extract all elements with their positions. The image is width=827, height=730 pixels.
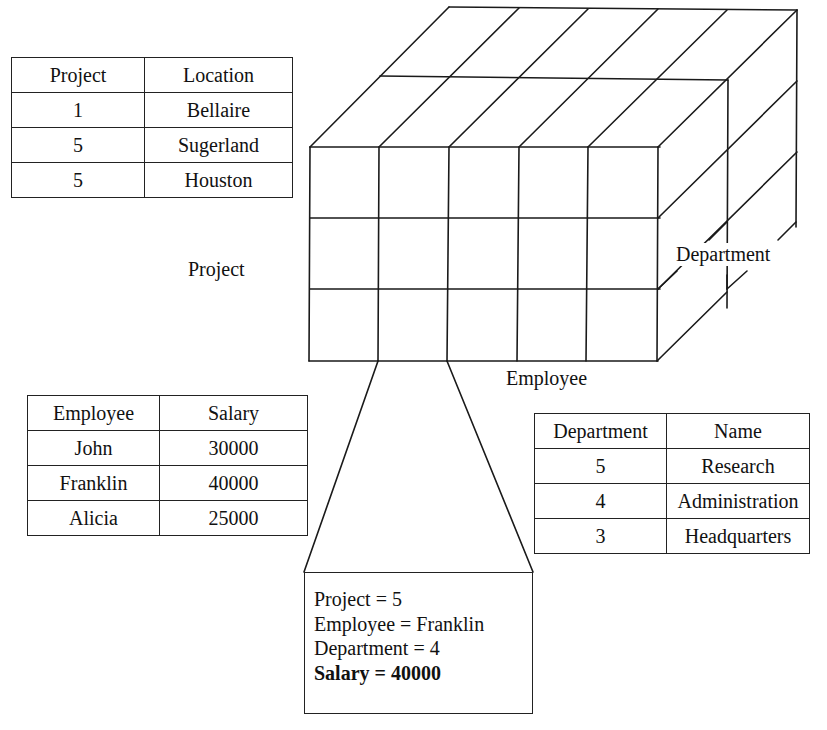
table-cell: 4 (535, 484, 667, 519)
table-cell: Houston (145, 163, 293, 198)
table-cell: 5 (12, 163, 145, 198)
axis-label-project: Project (188, 258, 245, 281)
table-row: John 30000 (28, 431, 308, 466)
table-header-row: Project Location (12, 58, 293, 93)
table-cell: Headquarters (667, 519, 810, 554)
detail-line-employee: Employee = Franklin (314, 612, 532, 637)
table-cell: 25000 (160, 501, 308, 536)
table-cell: Alicia (28, 501, 160, 536)
detail-line-project: Project = 5 (314, 587, 532, 612)
table-cell: Research (667, 449, 810, 484)
table-row: 3 Headquarters (535, 519, 810, 554)
column-header: Name (667, 414, 810, 449)
column-header: Location (145, 58, 293, 93)
table-row: 5 Sugerland (12, 128, 293, 163)
column-header: Department (535, 414, 667, 449)
detail-line-department: Department = 4 (314, 636, 532, 661)
column-header: Project (12, 58, 145, 93)
table-row: 4 Administration (535, 484, 810, 519)
department-name-table: Department Name 5 Research 4 Administrat… (534, 413, 810, 554)
cube-top-face (310, 7, 797, 147)
axis-label-department: Department (676, 243, 770, 266)
table-cell: Bellaire (145, 93, 293, 128)
table-cell: 3 (535, 519, 667, 554)
table-header-row: Department Name (535, 414, 810, 449)
cell-detail-box: Project = 5 Employee = Franklin Departme… (304, 572, 533, 714)
employee-salary-table: Employee Salary John 30000 Franklin 4000… (27, 395, 308, 536)
column-header: Employee (28, 396, 160, 431)
cube-front-face (309, 147, 660, 361)
table-row: 5 Research (535, 449, 810, 484)
table-cell: 1 (12, 93, 145, 128)
cube-right-face (657, 10, 797, 361)
table-cell: 40000 (160, 466, 308, 501)
table-cell: 5 (12, 128, 145, 163)
table-row: 1 Bellaire (12, 93, 293, 128)
table-row: Alicia 25000 (28, 501, 308, 536)
table-cell: 30000 (160, 431, 308, 466)
zoom-callout-lines (304, 361, 533, 572)
table-row: Franklin 40000 (28, 466, 308, 501)
table-row: 5 Houston (12, 163, 293, 198)
project-location-table: Project Location 1 Bellaire 5 Sugerland … (11, 57, 293, 198)
detail-line-salary: Salary = 40000 (314, 661, 532, 686)
table-cell: 5 (535, 449, 667, 484)
table-cell: Administration (667, 484, 810, 519)
table-cell: John (28, 431, 160, 466)
axis-label-employee: Employee (506, 367, 587, 390)
table-header-row: Employee Salary (28, 396, 308, 431)
table-cell: Sugerland (145, 128, 293, 163)
table-cell: Franklin (28, 466, 160, 501)
column-header: Salary (160, 396, 308, 431)
